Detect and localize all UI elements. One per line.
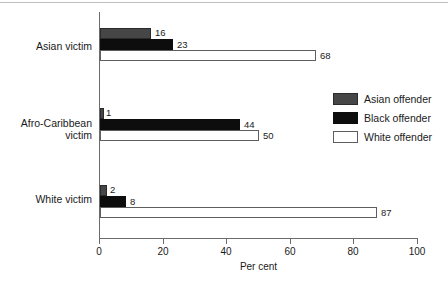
bar-black-offender-asian-victim (100, 39, 173, 50)
bar-white-offender-afro-caribbean-victim (100, 130, 259, 141)
bar-value-black-offender-white-victim: 8 (130, 196, 135, 207)
legend: Asian offender Black offender White offe… (333, 91, 432, 148)
x-axis-line (99, 238, 418, 239)
bar-asian-offender-white-victim (100, 185, 107, 196)
bar-value-black-offender-asian-victim: 23 (177, 39, 188, 50)
category-label-asian-victim: Asian victim (0, 41, 92, 53)
x-tick-label-60: 60 (284, 246, 295, 258)
x-tick-100 (417, 239, 418, 244)
legend-item-white-offender: White offender (333, 129, 432, 145)
bar-white-offender-white-victim (100, 207, 377, 218)
x-tick-label-20: 20 (157, 246, 168, 258)
bar-asian-offender-afro-caribbean-victim (100, 108, 104, 119)
bar-chart: 0 20 40 60 80 100 Per cent Asian victim … (0, 0, 448, 284)
bar-value-asian-offender-afro-caribbean-victim: 1 (106, 107, 111, 118)
x-tick-label-0: 0 (96, 246, 102, 258)
bar-value-asian-offender-asian-victim: 16 (155, 27, 166, 38)
bar-value-white-offender-white-victim: 87 (381, 207, 392, 218)
x-tick-0 (99, 239, 100, 244)
legend-swatch-asian-offender (333, 93, 358, 105)
legend-label-white-offender: White offender (364, 131, 432, 143)
bar-value-asian-offender-white-victim: 2 (110, 184, 115, 195)
bar-black-offender-afro-caribbean-victim (100, 119, 240, 130)
x-tick-label-100: 100 (409, 246, 426, 258)
legend-label-black-offender: Black offender (364, 112, 431, 124)
legend-item-asian-offender: Asian offender (333, 91, 432, 107)
category-label-afro-caribbean-victim: Afro-Caribbean victim (0, 118, 92, 141)
bar-value-black-offender-afro-caribbean-victim: 44 (244, 119, 255, 130)
x-tick-label-40: 40 (220, 246, 231, 258)
x-tick-60 (290, 239, 291, 244)
top-edge-line (0, 2, 448, 3)
bar-asian-offender-asian-victim (100, 28, 151, 39)
x-tick-40 (226, 239, 227, 244)
x-axis-title: Per cent (99, 261, 418, 273)
legend-label-asian-offender: Asian offender (364, 93, 432, 105)
legend-item-black-offender: Black offender (333, 110, 432, 126)
category-label-white-victim: White victim (0, 194, 92, 206)
bar-white-offender-asian-victim (100, 50, 316, 61)
x-tick-label-80: 80 (347, 246, 358, 258)
legend-swatch-white-offender (333, 131, 358, 143)
bar-black-offender-white-victim (100, 196, 126, 207)
bar-value-white-offender-afro-caribbean-victim: 50 (263, 130, 274, 141)
x-tick-80 (353, 239, 354, 244)
x-tick-20 (163, 239, 164, 244)
bar-value-white-offender-asian-victim: 68 (320, 50, 331, 61)
legend-swatch-black-offender (333, 112, 358, 124)
